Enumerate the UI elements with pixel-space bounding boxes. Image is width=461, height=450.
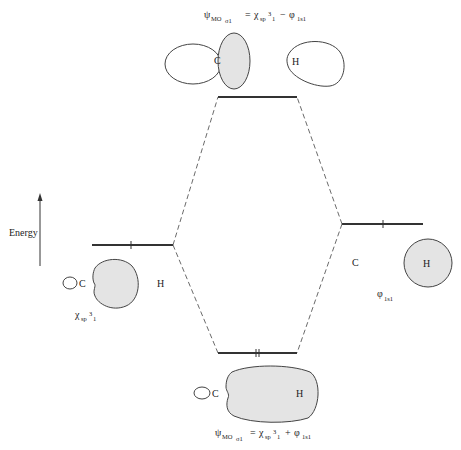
- chi-symbol: χ: [74, 309, 80, 320]
- chi-sup: 3: [89, 310, 92, 317]
- mo-diagram: ψ MO σ1 = χ sp 3 1 − φ 1s1 C H Energy: [0, 0, 461, 450]
- phi-symbol: φ: [289, 9, 295, 20]
- psi-subsub: σ1: [236, 435, 243, 442]
- small-lobe: [63, 277, 77, 289]
- carbon-sp3-orbital: C H χ sp 3 1: [63, 259, 164, 322]
- minus-sign: −: [280, 9, 286, 20]
- atom-h-label: H: [296, 388, 303, 399]
- antibonding-equation: ψ MO σ1 = χ sp 3 1 − φ 1s1: [204, 9, 306, 24]
- bonding-orbital-shape: C H: [194, 366, 318, 422]
- hydrogen-1s-orbital: C H φ 1s1: [352, 239, 452, 302]
- plus-sign: +: [285, 427, 291, 438]
- atom-c-label: C: [212, 388, 219, 399]
- back-lobe: [165, 44, 221, 84]
- chi-symbol: χ: [253, 9, 259, 20]
- psi-subsub: σ1: [225, 17, 232, 24]
- chi-sub2: 1: [277, 433, 280, 440]
- atom-h-label: H: [157, 278, 164, 289]
- phi-sub: 1s1: [297, 15, 306, 22]
- chi-sub2: 1: [272, 15, 275, 22]
- front-lobe: [218, 33, 250, 89]
- phi-symbol: φ: [377, 288, 383, 299]
- chi-sup: 3: [268, 10, 271, 17]
- psi-sub: MO: [222, 433, 233, 440]
- equals-sign: =: [250, 427, 256, 438]
- atom-c-label: C: [352, 257, 359, 268]
- atom-h-label: H: [423, 258, 430, 269]
- chi-sup: 3: [273, 428, 276, 435]
- chi-sub: sp: [81, 315, 87, 322]
- atom-h-label: H: [292, 56, 299, 67]
- correlation-lines: [173, 97, 342, 353]
- chi-sub2: 1: [93, 315, 96, 322]
- psi-symbol: ψ: [204, 9, 211, 20]
- atom-c-label: C: [214, 55, 221, 66]
- chi-sub: sp: [260, 15, 266, 22]
- atom-c-label: C: [79, 278, 86, 289]
- equals-sign: =: [245, 9, 251, 20]
- phi-sub: 1s1: [302, 433, 311, 440]
- small-lobe: [194, 387, 210, 399]
- antibonding-orbital-shape: C H: [165, 33, 344, 89]
- bonding-lobe: [226, 366, 318, 422]
- chi-sub: sp: [265, 433, 271, 440]
- large-lobe: [93, 259, 138, 308]
- psi-symbol: ψ: [215, 427, 222, 438]
- energy-label: Energy: [9, 227, 38, 238]
- energy-axis: Energy: [9, 193, 43, 266]
- chi-symbol: χ: [258, 427, 264, 438]
- bonding-equation: ψ MO σ1 = χ sp 3 1 + φ 1s1: [215, 427, 311, 442]
- phi-symbol: φ: [294, 427, 300, 438]
- psi-sub: MO: [211, 15, 222, 22]
- phi-sub: 1s1: [384, 295, 393, 302]
- arrow-up-icon: [38, 193, 43, 201]
